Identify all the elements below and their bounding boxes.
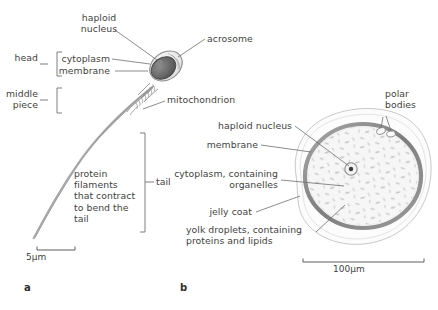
label-jelly-coat: jelly coat — [180, 206, 252, 217]
label-sperm-haploid-nucleus: haploid nucleus — [64, 12, 134, 34]
bracket-tail — [140, 133, 145, 232]
label-egg-membrane: membrane — [180, 139, 258, 150]
label-mitochondrion: mitochondrion — [167, 94, 235, 105]
label-egg-cytoplasm: cytoplasm, containing organelles — [172, 168, 278, 190]
bracket-middle-piece — [57, 88, 62, 113]
panel-label-b: b — [180, 282, 187, 293]
leader-haploid-nucleus — [115, 30, 157, 60]
leader-mitochondrion — [143, 101, 165, 109]
biology-figure: haploid nucleus cytoplasm membrane acros… — [0, 0, 438, 310]
label-sperm-cytoplasm: cytoplasm — [44, 53, 110, 64]
bracket-label-tail: tail — [156, 176, 171, 187]
label-acrosome: acrosome — [207, 33, 253, 44]
leader-jelly-coat — [256, 196, 300, 212]
label-polar-bodies: polar bodies — [385, 88, 416, 110]
egg-scale-bar — [303, 259, 424, 263]
label-sperm-membrane: membrane — [44, 65, 110, 76]
panel-label-a: a — [24, 282, 31, 293]
label-protein-filaments: protein filaments that contract to bend … — [74, 168, 135, 224]
scale-label-egg: 100µm — [333, 264, 395, 274]
sperm-head — [144, 45, 188, 87]
sperm-scale-bar — [37, 247, 75, 251]
leader-cytoplasm — [112, 59, 150, 64]
label-egg-haploid-nucleus: haploid nucleus — [180, 120, 292, 131]
sperm-middle-piece — [127, 83, 158, 115]
bracket-label-middle-piece: middle piece — [0, 88, 38, 110]
bracket-label-head: head — [0, 52, 38, 63]
cell-membrane-shape — [305, 124, 421, 228]
leader-acrosome — [178, 39, 205, 57]
label-yolk-droplets: yolk droplets, containing proteins and l… — [186, 224, 302, 246]
scale-label-sperm: 5µm — [26, 252, 86, 262]
